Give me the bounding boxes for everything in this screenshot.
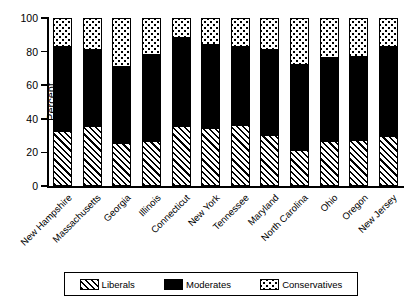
segment-conservatives <box>84 19 101 51</box>
legend-swatch-moderates <box>164 279 183 290</box>
segment-liberals <box>113 143 130 185</box>
bar-connecticut <box>172 18 191 186</box>
y-tick-80 <box>41 51 47 53</box>
segment-conservatives <box>232 19 249 48</box>
y-tick-label-20: 20 <box>26 147 38 157</box>
segment-conservatives <box>54 19 71 48</box>
segment-conservatives <box>321 19 338 59</box>
x-label-north-carolina: North Carolina <box>259 192 310 243</box>
x-label-maryland: Maryland <box>245 192 280 227</box>
bar-new-jersey <box>379 18 398 186</box>
bar-massachusetts <box>83 18 102 186</box>
x-label-new-york: New York <box>185 192 221 228</box>
segment-liberals <box>202 128 219 185</box>
segment-conservatives <box>202 19 219 46</box>
bar-new-hampshire <box>53 18 72 186</box>
x-label-illinois: Illinois <box>136 192 162 218</box>
segment-liberals <box>143 141 160 185</box>
legend-item-moderates: Moderates <box>164 279 231 290</box>
segment-moderates <box>380 46 397 137</box>
bar-georgia <box>112 18 131 186</box>
segment-moderates <box>261 49 278 135</box>
x-label-new-jersey: New Jersey <box>356 192 399 235</box>
segment-conservatives <box>173 19 190 39</box>
chart-legend: Liberals Moderates Conservatives <box>64 272 358 296</box>
segment-liberals <box>173 126 190 185</box>
y-tick-20 <box>41 152 47 154</box>
y-tick-label-0: 0 <box>32 181 38 191</box>
segment-moderates <box>202 44 219 128</box>
segment-conservatives <box>291 19 308 66</box>
legend-swatch-conservatives <box>260 279 279 290</box>
legend-label-conservatives: Conservatives <box>282 279 342 290</box>
bar-illinois <box>142 18 161 186</box>
x-label-new-hampshire: New Hampshire <box>18 192 74 248</box>
segment-conservatives <box>350 19 367 58</box>
bar-new-york <box>201 18 220 186</box>
x-label-georgia: Georgia <box>101 192 133 224</box>
segment-moderates <box>84 49 101 126</box>
segment-liberals <box>291 150 308 185</box>
segment-liberals <box>232 125 249 185</box>
segment-liberals <box>321 141 338 185</box>
segment-conservatives <box>380 19 397 48</box>
y-tick-40 <box>41 118 47 120</box>
legend-item-liberals: Liberals <box>80 279 135 290</box>
segment-moderates <box>350 56 367 140</box>
y-tick-label-60: 60 <box>26 80 38 90</box>
segment-liberals <box>350 140 367 185</box>
y-tick-label-80: 80 <box>26 47 38 57</box>
legend-item-conservatives: Conservatives <box>260 279 342 290</box>
segment-moderates <box>321 57 338 141</box>
bar-oregon <box>349 18 368 186</box>
segment-liberals <box>54 131 71 185</box>
bar-tennessee <box>231 18 250 186</box>
legend-label-liberals: Liberals <box>102 279 135 290</box>
segment-moderates <box>173 37 190 126</box>
bar-north-carolina <box>290 18 309 186</box>
segment-liberals <box>84 126 101 185</box>
x-axis-line <box>47 186 404 188</box>
x-label-connecticut: Connecticut <box>149 192 192 235</box>
y-tick-0 <box>41 185 47 187</box>
segment-moderates <box>291 64 308 150</box>
bar-maryland <box>260 18 279 186</box>
legend-swatch-liberals <box>80 279 99 290</box>
x-label-ohio: Ohio <box>318 192 340 214</box>
segment-moderates <box>54 46 71 132</box>
x-label-oregon: Oregon <box>339 192 369 222</box>
segment-conservatives <box>113 19 130 68</box>
x-label-massachusetts: Massachusetts <box>51 192 104 245</box>
y-tick-label-40: 40 <box>26 114 38 124</box>
legend-label-moderates: Moderates <box>186 279 231 290</box>
x-label-tennessee: Tennessee <box>211 192 251 232</box>
segment-moderates <box>113 66 130 143</box>
y-tick-100 <box>41 17 47 19</box>
y-tick-60 <box>41 84 47 86</box>
segment-moderates <box>143 54 160 141</box>
segment-liberals <box>261 135 278 185</box>
segment-conservatives <box>261 19 278 51</box>
segment-conservatives <box>143 19 160 56</box>
y-tick-label-100: 100 <box>20 13 38 23</box>
bar-ohio <box>320 18 339 186</box>
stacked-bar-chart: Percent 020406080100 New HampshireMassac… <box>0 0 420 308</box>
segment-liberals <box>380 136 397 185</box>
segment-moderates <box>232 46 249 125</box>
